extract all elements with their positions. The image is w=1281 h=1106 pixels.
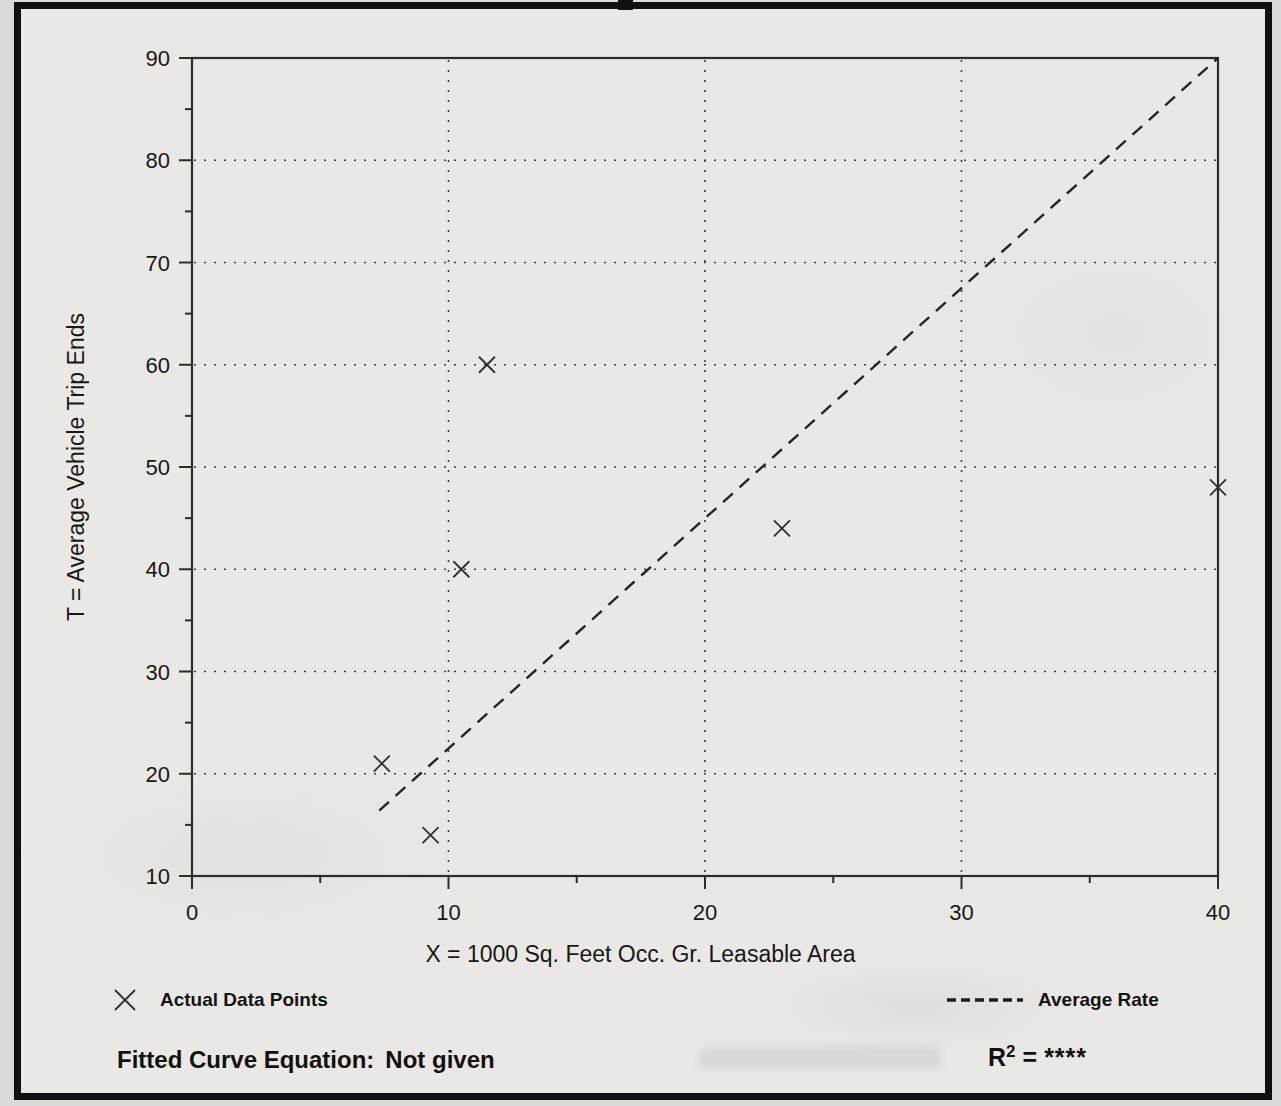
r2-exponent: 2 (1006, 1042, 1015, 1061)
y-tick-label: 80 (146, 148, 170, 173)
x-marker-icon (112, 987, 138, 1013)
legend-actual-data-points: Actual Data Points (112, 985, 328, 1015)
y-tick-label: 10 (146, 864, 170, 889)
y-tick-label: 30 (146, 660, 170, 685)
y-tick-label: 40 (146, 557, 170, 582)
y-tick-label: 50 (146, 455, 170, 480)
x-tick-label: 30 (949, 900, 973, 925)
y-axis-title: T = Average Vehicle Trip Ends (63, 313, 90, 621)
fitted-curve-equation: Fitted Curve Equation:Not given (117, 1046, 495, 1074)
x-tick-label: 20 (693, 900, 717, 925)
legend-actual-label: Actual Data Points (160, 989, 328, 1011)
dashed-line-icon (946, 995, 1024, 1005)
y-tick-label: 60 (146, 353, 170, 378)
x-axis-title: X = 1000 Sq. Feet Occ. Gr. Leasable Area (0, 941, 1281, 968)
y-tick-label: 90 (146, 46, 170, 71)
average-rate-line (379, 58, 1218, 811)
r-squared: R2=**** (988, 1042, 1087, 1072)
r2-base: R (988, 1043, 1006, 1071)
legend-average-label: Average Rate (1038, 989, 1159, 1011)
equation-value: Not given (385, 1046, 494, 1073)
x-tick-label: 40 (1206, 900, 1230, 925)
legend-average-rate: Average Rate (946, 985, 1159, 1015)
x-tick-label: 10 (436, 900, 460, 925)
r2-equals: = (1023, 1043, 1038, 1071)
equation-label: Fitted Curve Equation: (117, 1046, 374, 1073)
y-tick-label: 70 (146, 251, 170, 276)
r2-value: **** (1044, 1043, 1087, 1071)
y-tick-label: 20 (146, 762, 170, 787)
x-tick-label: 0 (186, 900, 198, 925)
